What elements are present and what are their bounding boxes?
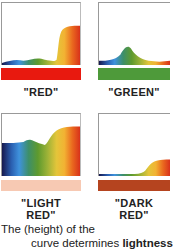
label-light-red-line1: "LIGHT [1, 197, 81, 209]
spectrum-chart-red [1, 2, 81, 65]
color-swatch-red [1, 68, 81, 80]
color-swatch-dark-red [98, 180, 170, 191]
color-swatch-green [98, 68, 170, 80]
spectrum-chart-dark-red [98, 113, 170, 176]
label-light-red: "LIGHT RED" [1, 197, 81, 221]
color-swatch-light-red [1, 180, 81, 191]
label-green: "GREEN" [96, 86, 172, 98]
spectral-curve-green [99, 3, 170, 65]
caption-line-2: curve determines lightness [1, 237, 173, 250]
label-light-red-line2: RED" [1, 209, 81, 221]
spectral-curve-red [2, 3, 80, 65]
caption-line-1: The (height) of the [1, 223, 95, 236]
label-dark-red-line2: RED" [96, 209, 172, 221]
caption-line-2-text: curve determines [31, 237, 122, 249]
spectrum-chart-light-red [1, 113, 81, 176]
spectrum-chart-green [98, 2, 170, 65]
label-dark-red-line1: "DARK [96, 197, 172, 209]
caption-emphasis: lightness [122, 237, 172, 249]
spectral-curve-light-red [2, 114, 80, 176]
spectral-curve-dark-red [99, 114, 170, 176]
label-red: "RED" [1, 86, 81, 98]
label-dark-red: "DARK RED" [96, 197, 172, 221]
